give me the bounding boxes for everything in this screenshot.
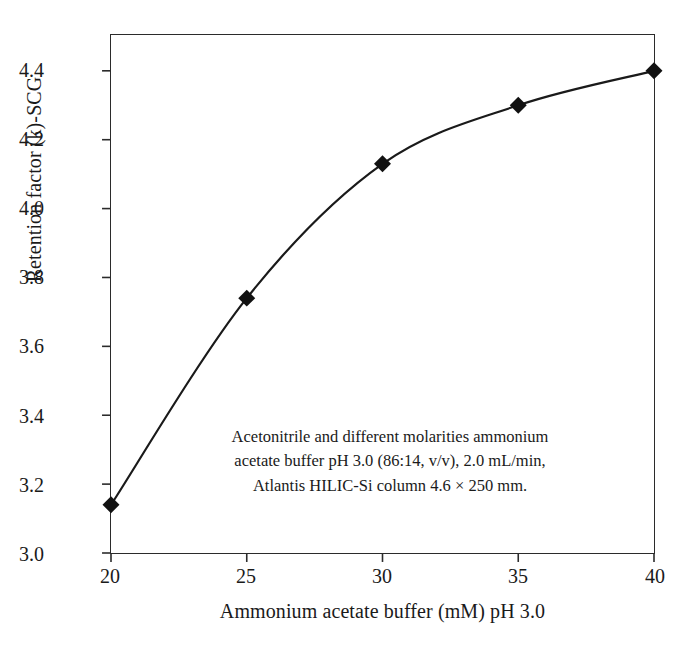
- data-point-marker: [374, 155, 391, 172]
- y-tick-label: 3.4: [0, 406, 44, 426]
- y-tick-label: 3.0: [0, 544, 44, 564]
- data-point-marker: [646, 62, 663, 79]
- x-tick-label: 25: [216, 566, 276, 586]
- y-tick-label: 4.2: [0, 129, 44, 149]
- annotation-text: Acetonitrile and different molarities am…: [150, 425, 630, 498]
- y-tick-label: 3.8: [0, 267, 44, 287]
- data-point-marker: [103, 496, 120, 513]
- data-point-marker: [510, 97, 527, 114]
- y-tick-label: 3.2: [0, 475, 44, 495]
- x-axis-label: Ammonium acetate buffer (mM) pH 3.0: [110, 600, 655, 623]
- annotation-line: acetate buffer pH 3.0 (86:14, v/v), 2.0 …: [150, 449, 630, 473]
- x-tick-label: 35: [488, 566, 548, 586]
- chart-figure: Retention factor (k)-SCG 3.0 3.2 3.4 3.6…: [0, 0, 694, 655]
- y-tick-label: 4.4: [0, 60, 44, 80]
- x-tick-label: 20: [80, 566, 140, 586]
- annotation-line: Acetonitrile and different molarities am…: [150, 425, 630, 449]
- y-tick-label: 4.0: [0, 198, 44, 218]
- x-tick-label: 30: [352, 566, 412, 586]
- x-tick-label: 40: [625, 566, 685, 586]
- y-tick-label: 3.6: [0, 336, 44, 356]
- annotation-line: Atlantis HILIC-Si column 4.6 × 250 mm.: [150, 474, 630, 498]
